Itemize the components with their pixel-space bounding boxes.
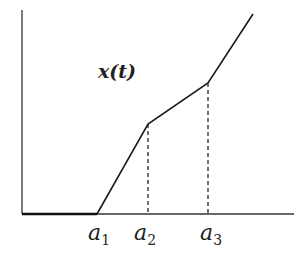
piecewise-linear-diagram — [0, 0, 304, 256]
tick-label-a1: a1 — [88, 220, 110, 248]
tick-label-a2: a2 — [134, 220, 156, 248]
tick-label-a3: a3 — [200, 220, 222, 248]
tick-base: a — [200, 220, 213, 245]
tick-subscript: 3 — [213, 232, 222, 248]
tick-base: a — [88, 220, 101, 245]
tick-base: a — [134, 220, 147, 245]
function-label: x(t) — [98, 60, 136, 82]
function-curve — [97, 14, 253, 214]
tick-subscript: 2 — [147, 232, 156, 248]
tick-subscript: 1 — [101, 232, 110, 248]
